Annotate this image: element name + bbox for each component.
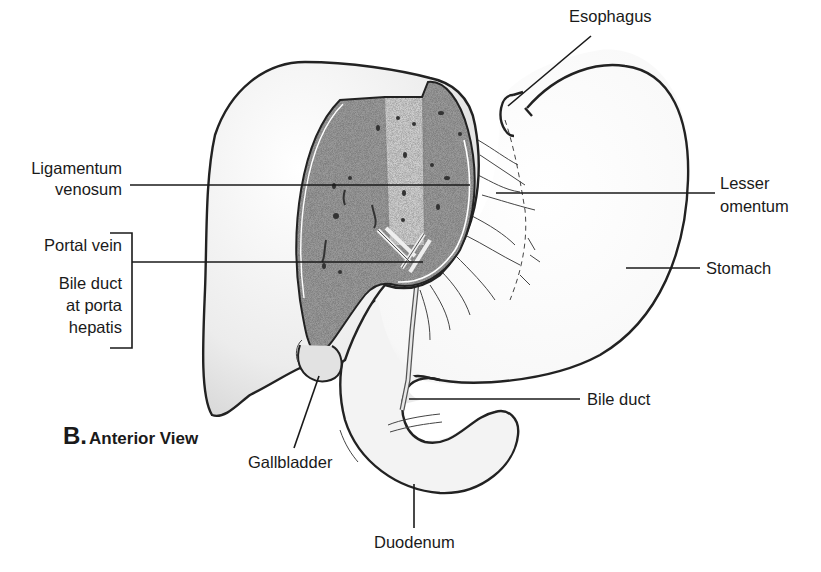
label-bile-duct-porta-2: at porta: [66, 296, 123, 314]
label-lesser-omentum-1: Lesser: [720, 174, 770, 192]
figure-title: B. Anterior View: [63, 422, 199, 449]
title-text: Anterior View: [89, 429, 199, 448]
label-bile-duct: Bile duct: [587, 390, 651, 408]
label-duodenum: Duodenum: [374, 533, 455, 551]
label-bile-duct-porta-3: hepatis: [69, 318, 122, 336]
leader-gallbladder: [294, 376, 319, 448]
label-esophagus: Esophagus: [569, 7, 652, 25]
label-portal-vein: Portal vein: [44, 236, 122, 254]
label-lesser-omentum-2: omentum: [720, 197, 789, 215]
label-ligamentum-venosum-1: Ligamentum: [31, 159, 122, 177]
label-ligamentum-venosum-2: venosum: [55, 180, 122, 198]
anatomy-figure: Esophagus Ligamentum venosum Lesser omen…: [0, 0, 821, 572]
label-gallbladder: Gallbladder: [248, 453, 333, 471]
title-letter: B.: [63, 422, 87, 449]
label-bile-duct-porta-1: Bile duct: [59, 274, 123, 292]
label-stomach: Stomach: [706, 259, 771, 277]
